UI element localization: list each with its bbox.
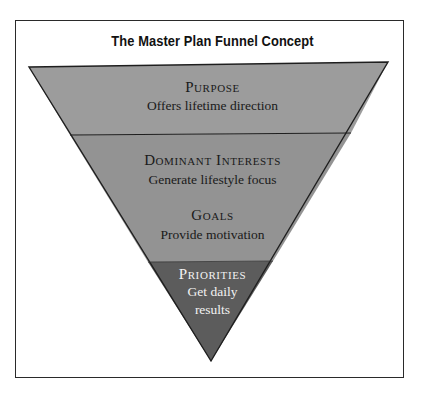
tier-priorities-description-line1: Get daily [0,284,425,300]
tier-priorities-description-line2: results [0,302,425,318]
tier-purpose-description: Offers lifetime direction [0,98,425,114]
tier-interests-description: Generate lifestyle focus [0,172,425,188]
funnel-graphic [0,0,425,399]
tier-priorities-heading: Priorities [0,266,425,283]
tier-interests-heading: Dominant Interests [0,152,425,169]
tier-purpose-heading: Purpose [0,79,425,96]
tier-goals-description: Provide motivation [0,227,425,243]
tier-goals-heading: Goals [0,207,425,224]
